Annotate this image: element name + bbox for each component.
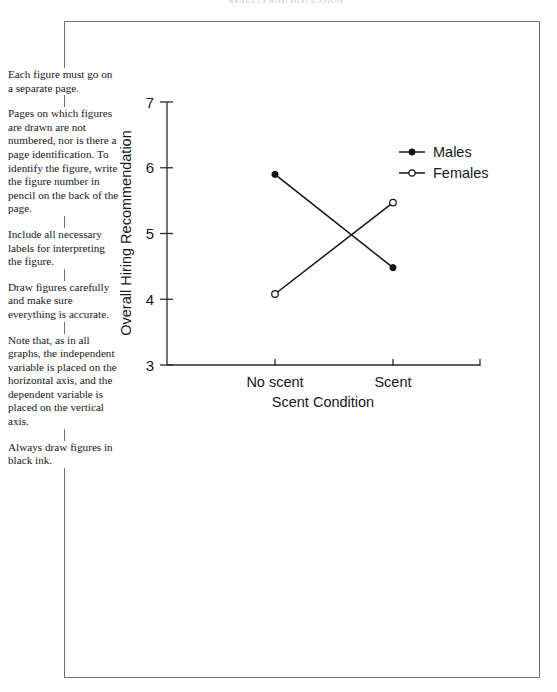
notes-column: Each figure must go on a separate page. … — [8, 68, 120, 480]
data-series-layer — [272, 171, 397, 297]
note-item: Draw figures carefully and make sure eve… — [8, 281, 120, 322]
series-line-males — [275, 174, 393, 267]
x-axis-title: Scent Condition — [272, 394, 374, 410]
data-point-females — [272, 291, 279, 298]
chart-legend: Males Females — [399, 144, 489, 181]
x-category-labels: No scentScent — [246, 374, 411, 390]
chart-canvas: 34567 Overall Hiring Recommendation Scen… — [120, 80, 540, 420]
data-point-males — [390, 265, 396, 271]
legend-females-marker-icon — [409, 170, 415, 176]
note-item: Pages on which figures are drawn are not… — [8, 107, 120, 216]
data-point-females — [390, 199, 397, 206]
y-axis-title: Overall Hiring Recommendation — [120, 130, 134, 336]
line-chart: 34567 Overall Hiring Recommendation Scen… — [120, 80, 540, 420]
y-tick-label: 6 — [146, 159, 154, 176]
legend-females-label: Females — [433, 165, 489, 181]
x-category-label: No scent — [246, 374, 303, 390]
y-tick-label: 7 — [146, 94, 154, 111]
legend-males-marker-icon — [409, 149, 415, 155]
y-tick-label: 5 — [146, 225, 154, 242]
data-point-males — [272, 171, 278, 177]
y-tick-label: 4 — [146, 291, 154, 308]
running-head: RESULTS AND DISCUSSION — [186, 0, 386, 6]
series-line-females — [275, 203, 393, 294]
legend-males-label: Males — [433, 144, 472, 160]
note-item: Include all necessary labels for interpr… — [8, 228, 120, 269]
note-item: Note that, as in all graphs, the indepen… — [8, 334, 120, 429]
y-axis-ticks: 34567 — [146, 94, 173, 374]
x-category-label: Scent — [374, 374, 411, 390]
note-item: Each figure must go on a separate page. — [8, 68, 120, 95]
y-tick-label: 3 — [146, 357, 154, 374]
note-item: Always draw figures in black ink. — [8, 441, 120, 468]
